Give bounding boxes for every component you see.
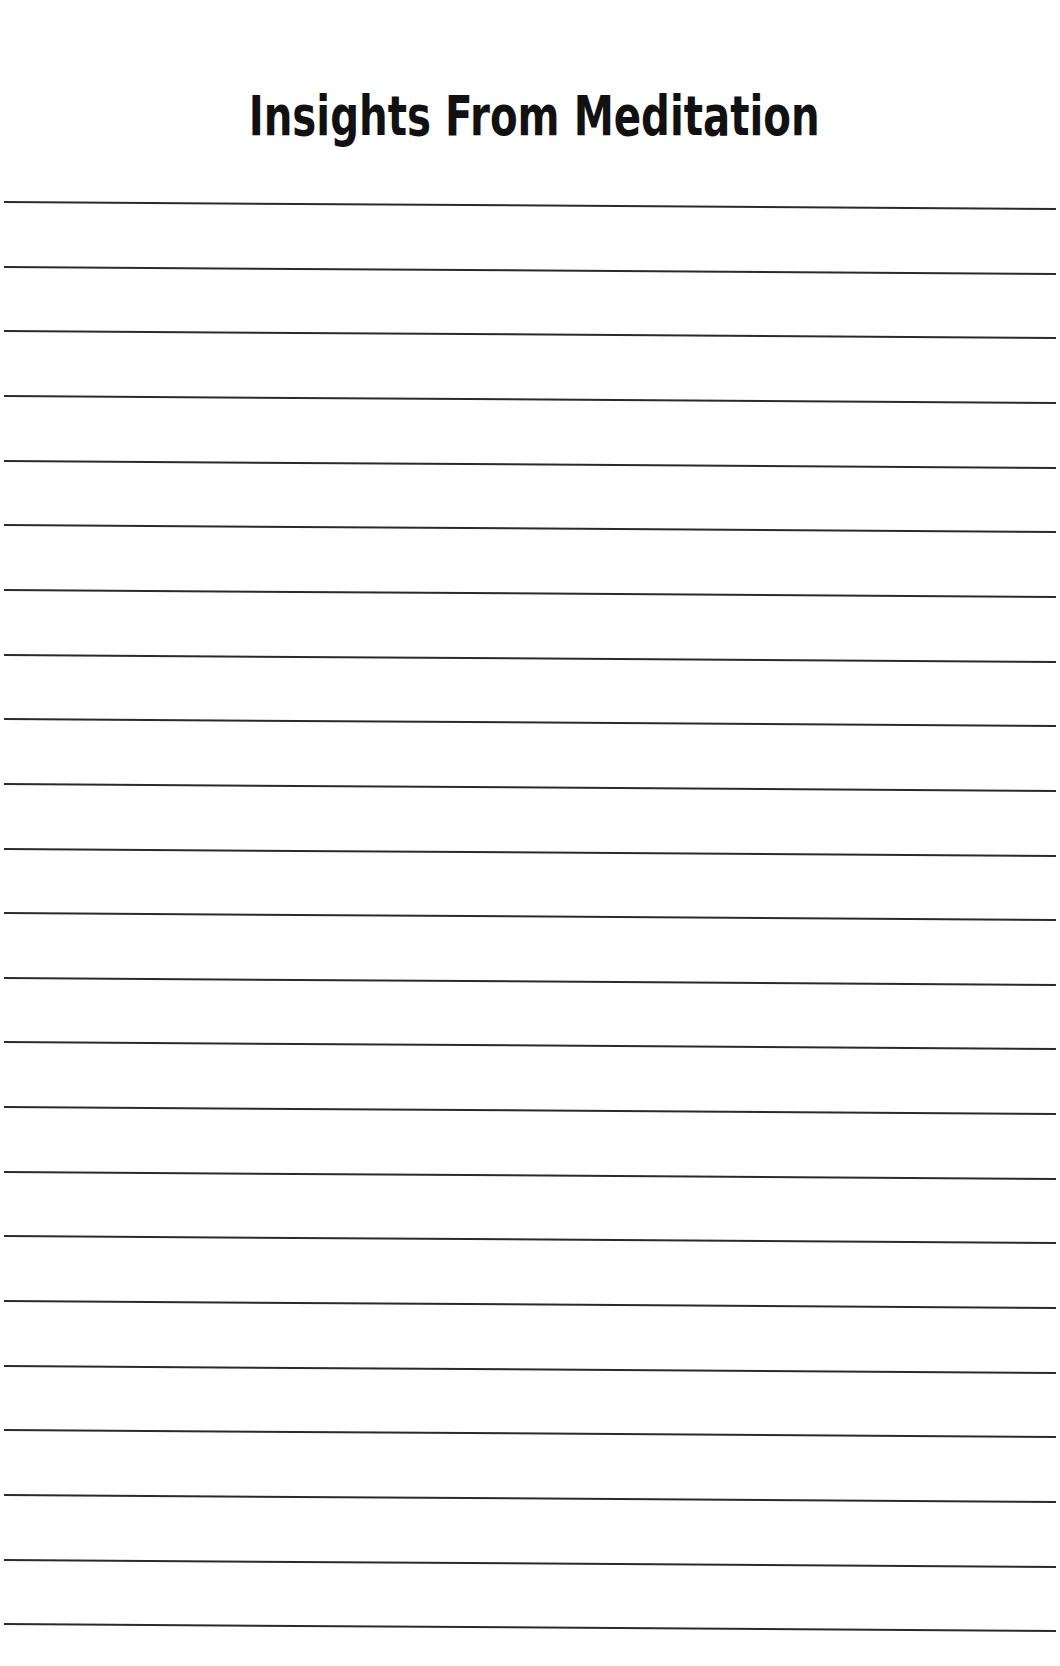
writing-line <box>4 460 1056 469</box>
writing-line <box>4 977 1056 986</box>
writing-line <box>4 718 1056 727</box>
writing-line <box>4 654 1056 663</box>
writing-line <box>4 1494 1056 1503</box>
writing-line <box>4 201 1056 210</box>
writing-line <box>4 266 1056 275</box>
writing-line <box>4 912 1056 921</box>
writing-line <box>4 1235 1056 1244</box>
writing-line <box>4 1300 1056 1309</box>
writing-line <box>4 1171 1056 1180</box>
ruled-lines <box>0 0 1060 1666</box>
notebook-page: Insights From Meditation <box>0 0 1060 1666</box>
writing-line <box>4 524 1056 533</box>
writing-line <box>4 1429 1056 1438</box>
writing-line <box>4 1365 1056 1374</box>
writing-line <box>4 1623 1056 1632</box>
writing-line <box>4 1559 1056 1568</box>
writing-line <box>4 1106 1056 1115</box>
writing-line <box>4 848 1056 857</box>
writing-line <box>4 330 1056 339</box>
writing-line <box>4 395 1056 404</box>
writing-line <box>4 589 1056 598</box>
writing-line <box>4 1041 1056 1050</box>
writing-line <box>4 783 1056 792</box>
